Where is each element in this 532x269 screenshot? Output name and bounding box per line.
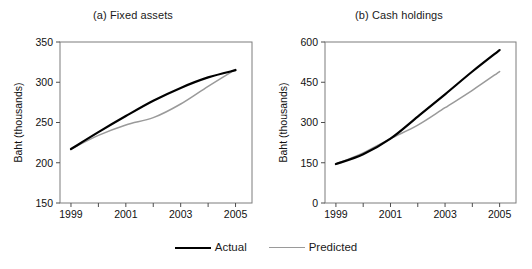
x-axis-tick-label: 2003 (169, 208, 193, 220)
y-axis-tick-label: 150 (300, 157, 318, 169)
legend-label-predicted: Predicted (309, 241, 358, 254)
panel-a-plot: 1502002503003501999200120032005Baht (tho… (0, 0, 266, 232)
legend-item-actual: Actual (175, 241, 247, 254)
y-axis-tick-label: 350 (35, 36, 53, 48)
y-axis-tick-label: 200 (35, 157, 53, 169)
x-axis-tick-label: 1999 (324, 208, 348, 220)
y-axis-title: Baht (thousands) (277, 83, 289, 163)
series-line-actual (336, 50, 500, 164)
x-axis-tick-label: 2003 (433, 208, 457, 220)
y-axis-tick-label: 300 (35, 76, 53, 88)
legend-item-predicted: Predicted (269, 241, 358, 254)
panel-b-plot: 01503004506001999200120032005Baht (thous… (266, 0, 532, 232)
y-axis-tick-label: 600 (300, 36, 318, 48)
y-axis-tick-label: 450 (300, 76, 318, 88)
legend-line-predicted-icon (269, 247, 305, 248)
y-axis-tick-label: 0 (312, 197, 318, 209)
x-axis-tick-label: 1999 (59, 208, 83, 220)
panel-cash-holdings: (b) Cash holdings 0150300450600199920012… (266, 0, 532, 232)
y-axis-tick-label: 250 (35, 116, 53, 128)
plot-frame (60, 42, 252, 203)
x-axis-tick-label: 2005 (224, 208, 248, 220)
panel-fixed-assets: (a) Fixed assets 15020025030035019992001… (0, 0, 266, 232)
y-axis-tick-label: 150 (35, 197, 53, 209)
x-axis-tick-label: 2001 (379, 208, 403, 220)
plot-frame (325, 42, 516, 203)
y-axis-title: Baht (thousands) (12, 83, 24, 163)
figure-two-panel-line-charts: (a) Fixed assets 15020025030035019992001… (0, 0, 532, 269)
y-axis-tick-label: 300 (300, 116, 318, 128)
x-axis-tick-label: 2005 (488, 208, 512, 220)
chart-legend: Actual Predicted (0, 234, 532, 269)
legend-label-actual: Actual (215, 241, 247, 254)
legend-line-actual-icon (175, 247, 211, 249)
series-line-predicted (71, 69, 236, 149)
x-axis-tick-label: 2001 (114, 208, 138, 220)
